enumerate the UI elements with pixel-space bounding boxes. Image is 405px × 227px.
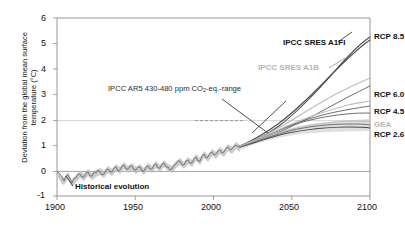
y-tick-label-minus1: -1 [37,191,45,200]
series-label-ipcc-sres-a1fi: IPCC SRES A1FI [283,39,345,47]
series-label-rcp-26: RCP 2.6 [374,131,404,139]
line-rcp-60 [240,86,370,146]
annotation-ar5-range-before: IPCC AR5 430-480 ppm CO [108,84,203,93]
climate-projection-chart: 6 5 4 3 2 1 0 -1 1900 1950 2000 2050 210… [0,0,405,227]
x-tick-label-2100: 2100 [357,203,377,212]
series-label-gea: GEA [374,121,391,129]
y-tick-label-2: 2 [41,116,46,125]
y-axis-title: Deviation from the global mean surface t… [20,17,39,177]
x-tick-label-2050: 2050 [279,203,299,212]
series-label-rcp-85: RCP 8.5 [374,33,404,41]
y-tick-label-3: 3 [41,90,46,99]
historical-uncertainty-band [57,142,240,187]
y-tick-label-5: 5 [41,39,46,48]
series-historical-evolution [57,142,240,187]
x-tick-label-1950: 1950 [123,203,143,212]
annotation-historical-evolution: Historical evolution [75,183,149,191]
series-label-rcp-60: RCP 6.0 [374,91,404,99]
y-tick-label-4: 4 [41,65,46,74]
series-label-ipcc-sres-a1b: IPCC SRES A1B [258,64,319,72]
annotation-ar5-range-after: -eq.-range [206,84,241,93]
x-tick-label-2000: 2000 [201,203,221,212]
series-label-rcp-45: RCP 4.5 [374,108,404,116]
y-tick-marks [53,18,57,196]
y-tick-label-6: 6 [41,14,46,23]
y-tick-label-0: 0 [41,167,46,176]
x-tick-label-1900: 1900 [45,203,65,212]
chart-canvas [0,0,405,227]
annotation-ar5-range: IPCC AR5 430-480 ppm CO2-eq.-range [108,85,241,94]
y-tick-label-1: 1 [41,141,46,150]
x-tick-marks [57,196,370,200]
leader-ar5-range [222,99,268,133]
